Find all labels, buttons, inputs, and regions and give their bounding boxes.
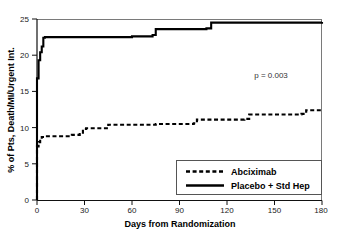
legend-label-abciximab: Abciximab: [231, 167, 277, 177]
y-tick-label-10: 10: [20, 124, 29, 133]
x-tick-label-180: 180: [314, 206, 328, 215]
y-tick-label-20: 20: [20, 51, 29, 60]
legend-label-placebo-std-hep: Placebo + Std Hep: [231, 181, 310, 191]
x-tick-label-60: 60: [128, 206, 137, 215]
x-axis-ticks: [37, 201, 322, 206]
y-tick-label-15: 15: [20, 87, 29, 96]
y-tick-label-0: 0: [25, 196, 30, 205]
y-axis-tick-labels: 0 5 10 15 20 25: [20, 15, 29, 205]
x-tick-label-150: 150: [268, 206, 282, 215]
x-axis-tick-labels: 0 30 60 90 120 150 180: [35, 206, 328, 215]
chart-legend: Abciximab Placebo + Std Hep: [177, 161, 322, 195]
x-axis-title: Days from Randomization: [124, 219, 235, 229]
x-tick-label-30: 30: [80, 206, 89, 215]
x-tick-label-0: 0: [35, 206, 40, 215]
chart-canvas: 0 5 10 15 20 25 % of Pts, Death/MI/Urgen…: [0, 0, 337, 235]
kaplan-meier-figure: 0 5 10 15 20 25 % of Pts, Death/MI/Urgen…: [0, 0, 337, 235]
x-tick-label-120: 120: [220, 206, 234, 215]
y-axis-title: % of Pts, Death/MI/Urgent Int.: [6, 47, 16, 173]
p-value-annotation: p = 0.003: [254, 71, 288, 80]
y-tick-label-5: 5: [25, 160, 30, 169]
y-axis: 0 5 10 15 20 25 % of Pts, Death/MI/Urgen…: [6, 15, 37, 205]
x-axis: 0 30 60 90 120 150 180 Days from Randomi…: [35, 201, 328, 230]
x-tick-label-90: 90: [175, 206, 184, 215]
y-tick-label-25: 25: [20, 15, 29, 24]
